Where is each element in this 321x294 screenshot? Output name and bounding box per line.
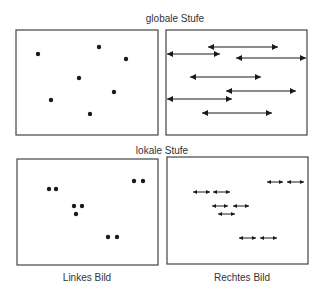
point	[115, 235, 119, 239]
point	[106, 235, 110, 239]
point	[88, 112, 92, 116]
point	[132, 179, 136, 183]
global-right-panel	[166, 30, 307, 135]
point	[36, 52, 40, 56]
point	[77, 76, 81, 80]
point	[49, 98, 53, 102]
point	[141, 179, 145, 183]
point	[72, 204, 76, 208]
point	[80, 204, 84, 208]
global-right-frame	[166, 30, 307, 135]
global-left-frame	[16, 30, 158, 135]
global-left-panel	[16, 30, 158, 135]
point	[124, 57, 128, 61]
local-left-panel	[17, 159, 158, 265]
point	[112, 90, 116, 94]
point	[97, 45, 101, 49]
point	[54, 187, 58, 191]
point	[74, 212, 78, 216]
diagram-canvas	[0, 0, 321, 294]
point	[47, 187, 51, 191]
local-right-frame	[167, 157, 308, 264]
local-right-panel	[167, 157, 308, 264]
local-left-frame	[17, 159, 158, 265]
